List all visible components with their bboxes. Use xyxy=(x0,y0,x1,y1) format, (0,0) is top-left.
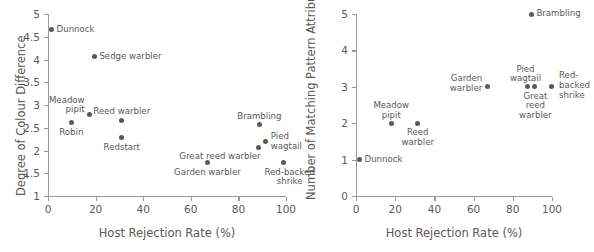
data-point[interactable] xyxy=(415,121,420,126)
y-tick-label: 1 xyxy=(6,191,40,202)
x-tick-mark xyxy=(96,197,97,201)
x-tick-mark xyxy=(395,197,396,201)
y-tick-mark xyxy=(44,14,48,15)
y-tick-mark xyxy=(352,14,356,15)
x-tick-label: 80 xyxy=(218,204,258,215)
y-tick-mark xyxy=(352,87,356,88)
chart-panel-left: Degree of Colour Difference 11.522.533.5… xyxy=(0,0,290,252)
y-tick-mark xyxy=(44,82,48,83)
y-tick-label: 5 xyxy=(314,9,348,20)
right-x-axis-line xyxy=(356,196,552,197)
right-y-axis-title: Number of Matching Pattern Attributes xyxy=(306,0,318,200)
left-x-axis-title: Host Rejection Rate (%) xyxy=(48,228,286,240)
x-tick-label: 80 xyxy=(493,204,533,215)
y-tick-label: 1.5 xyxy=(6,168,40,179)
data-point[interactable] xyxy=(263,139,268,144)
x-tick-label: 20 xyxy=(76,204,116,215)
y-tick-label: 4 xyxy=(314,45,348,56)
data-point[interactable] xyxy=(119,135,124,140)
y-tick-label: 1 xyxy=(314,155,348,166)
y-tick-mark xyxy=(352,123,356,124)
x-tick-mark xyxy=(552,197,553,201)
data-point-label: Sedge warbler xyxy=(99,52,195,62)
data-point[interactable] xyxy=(256,145,261,150)
x-tick-mark xyxy=(191,197,192,201)
x-tick-mark xyxy=(474,197,475,201)
data-point-label: Brambling xyxy=(536,9,594,19)
y-tick-mark xyxy=(44,173,48,174)
data-point-label: Reed warbler xyxy=(74,107,170,117)
x-tick-mark xyxy=(48,197,49,201)
data-point-label: Red- backed shrike xyxy=(559,71,594,100)
y-tick-mark xyxy=(352,160,356,161)
data-point[interactable] xyxy=(549,84,554,89)
data-point-label: Dunnock xyxy=(365,155,461,165)
right-x-axis-title: Host Rejection Rate (%) xyxy=(356,228,552,240)
y-tick-label: 4 xyxy=(6,55,40,66)
data-point-label: Reed warbler xyxy=(370,128,466,147)
y-tick-mark xyxy=(352,50,356,51)
y-tick-mark xyxy=(44,60,48,61)
y-tick-label: 5 xyxy=(6,9,40,20)
data-point-label: Garden warbler xyxy=(386,74,482,93)
x-tick-label: 0 xyxy=(28,204,68,215)
data-point[interactable] xyxy=(92,54,97,59)
y-tick-mark xyxy=(44,151,48,152)
chart-panel-right: Number of Matching Pattern Attributes 01… xyxy=(290,0,576,252)
data-point[interactable] xyxy=(49,27,54,32)
x-tick-mark xyxy=(434,197,435,201)
data-point[interactable] xyxy=(69,120,74,125)
x-tick-label: 100 xyxy=(532,204,572,215)
left-x-axis-line xyxy=(48,196,286,197)
data-point-label: Meadow pipit xyxy=(0,96,85,115)
data-point[interactable] xyxy=(532,84,537,89)
data-point-label: Dunnock xyxy=(57,25,153,35)
x-tick-label: 40 xyxy=(414,204,454,215)
data-point[interactable] xyxy=(205,160,210,165)
y-tick-label: 2 xyxy=(6,146,40,157)
data-point[interactable] xyxy=(529,12,534,17)
data-point-label: Meadow pipit xyxy=(343,101,439,120)
y-tick-mark xyxy=(44,37,48,38)
x-tick-label: 40 xyxy=(123,204,163,215)
x-tick-label: 20 xyxy=(375,204,415,215)
data-point[interactable] xyxy=(119,118,124,123)
y-tick-label: 4.5 xyxy=(6,32,40,43)
data-point-label: Great reed warbler xyxy=(165,152,261,162)
x-tick-mark xyxy=(356,197,357,201)
data-point[interactable] xyxy=(257,122,262,127)
x-tick-mark xyxy=(286,197,287,201)
x-tick-label: 60 xyxy=(171,204,211,215)
data-point[interactable] xyxy=(389,121,394,126)
x-tick-label: 0 xyxy=(336,204,376,215)
x-tick-mark xyxy=(513,197,514,201)
x-tick-mark xyxy=(238,197,239,201)
data-point[interactable] xyxy=(485,84,490,89)
x-tick-label: 60 xyxy=(454,204,494,215)
x-tick-mark xyxy=(143,197,144,201)
data-point[interactable] xyxy=(357,157,362,162)
data-point[interactable] xyxy=(281,160,286,165)
data-point-label: Redstart xyxy=(74,143,170,153)
y-tick-label: 0 xyxy=(314,191,348,202)
data-point-label: Robin xyxy=(23,128,119,138)
y-tick-label: 3 xyxy=(314,82,348,93)
data-point[interactable] xyxy=(525,84,530,89)
y-tick-label: 3.5 xyxy=(6,77,40,88)
